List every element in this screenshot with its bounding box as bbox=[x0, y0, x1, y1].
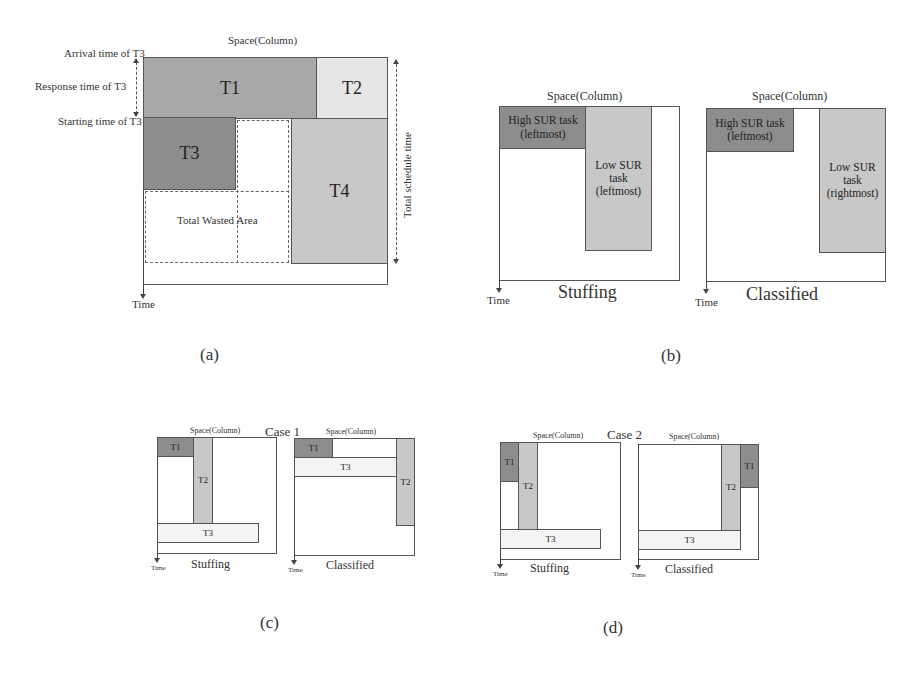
response-time-arrow bbox=[136, 62, 137, 114]
space-column-label: Space(Column) bbox=[752, 89, 827, 104]
time-label: Time bbox=[487, 294, 510, 306]
task-t2: T2 bbox=[316, 57, 388, 119]
time-arrow-icon bbox=[154, 558, 160, 563]
space-column-label: Space(Column) bbox=[669, 432, 719, 441]
time-arrow-icon bbox=[635, 565, 641, 570]
space-column-label: Space(Column) bbox=[326, 427, 376, 436]
high-sur-task: High SUR task (leftmost) bbox=[499, 106, 587, 149]
time-arrow-icon bbox=[703, 289, 709, 294]
task-t3: T3 bbox=[500, 529, 601, 549]
low-sur-task: Low SUR task (leftmost) bbox=[585, 106, 652, 251]
task-t3: T3 bbox=[294, 457, 397, 477]
task-t1: T1 bbox=[740, 444, 759, 488]
time-label: Time bbox=[695, 296, 718, 308]
starting-time-label: Starting time of T3 bbox=[58, 115, 142, 127]
task-t1: T1 bbox=[500, 442, 519, 482]
total-schedule-arrow bbox=[396, 64, 397, 260]
caption-a: (a) bbox=[200, 345, 219, 365]
space-column-label: Space(Column) bbox=[190, 426, 240, 435]
caption-c: (c) bbox=[260, 613, 279, 633]
task-t3: T3 bbox=[157, 523, 259, 543]
time-arrow-icon bbox=[291, 560, 297, 565]
time-label: Time bbox=[151, 564, 166, 572]
total-schedule-label: Total schedule time bbox=[401, 132, 413, 218]
classified-title: Classified bbox=[746, 284, 818, 305]
task-t1: T1 bbox=[143, 57, 317, 119]
task-t3: T3 bbox=[638, 530, 741, 550]
classified-title: Classified bbox=[326, 558, 374, 573]
time-label: Time bbox=[288, 566, 303, 574]
time-label: Time bbox=[493, 570, 508, 578]
low-sur-task: Low SUR task (rightmost) bbox=[819, 108, 886, 253]
task-t1: T1 bbox=[294, 438, 333, 458]
wasted-area-outline-lower bbox=[145, 191, 289, 263]
caption-b: (b) bbox=[661, 346, 681, 366]
space-column-label: Space(Column) bbox=[547, 89, 622, 104]
task-t2: T2 bbox=[721, 444, 741, 531]
stuffing-title: Stuffing bbox=[191, 557, 230, 572]
stuffing-title: Stuffing bbox=[558, 282, 617, 303]
task-t3: T3 bbox=[143, 117, 236, 190]
case-label: Case 2 bbox=[607, 427, 642, 443]
stuffing-title: Stuffing bbox=[530, 561, 569, 576]
time-label: Time bbox=[132, 298, 155, 310]
wasted-area-label: Total Wasted Area bbox=[177, 214, 258, 226]
time-arrow-icon bbox=[497, 564, 503, 569]
response-arrow-up-icon bbox=[133, 58, 139, 63]
task-t2: T2 bbox=[518, 442, 538, 530]
task-t1: T1 bbox=[157, 437, 194, 457]
response-arrow-down-icon bbox=[133, 112, 139, 117]
schedule-arrow-up-icon bbox=[393, 59, 399, 64]
time-arrow-icon bbox=[496, 288, 502, 293]
time-label: Time bbox=[631, 571, 646, 579]
task-t4: T4 bbox=[291, 118, 388, 264]
classified-title: Classified bbox=[665, 562, 713, 577]
response-time-label: Response time of T3 bbox=[35, 80, 126, 92]
task-t2: T2 bbox=[396, 438, 415, 526]
high-sur-task: High SUR task (leftmost) bbox=[706, 108, 794, 152]
space-column-label: Space(Column) bbox=[533, 431, 583, 440]
space-column-label: Space(Column) bbox=[228, 34, 297, 46]
schedule-arrow-down-icon bbox=[393, 259, 399, 264]
caption-d: (d) bbox=[603, 618, 623, 638]
task-t2: T2 bbox=[193, 437, 213, 524]
